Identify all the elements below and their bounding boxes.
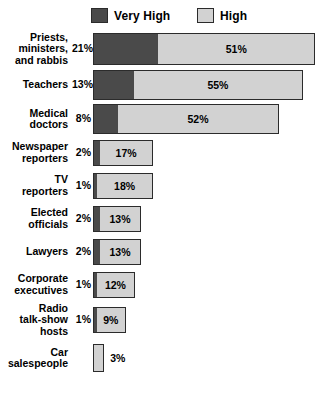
stacked-bar: 51%	[93, 33, 315, 65]
stacked-bar: 13%	[93, 239, 141, 265]
bar-high-value-label: 52%	[188, 113, 209, 125]
bar-segment-high: 51%	[158, 34, 314, 64]
row-category-label: Newspaper reporters	[0, 141, 72, 164]
row-category-label: Radio talk-show hosts	[0, 303, 72, 338]
legend-swatch-high	[197, 8, 214, 23]
row-very-high-value: 8%	[72, 113, 93, 125]
bar-high-value-label: 18%	[114, 180, 135, 192]
bar-segment-high: 9%	[97, 308, 125, 332]
stacked-bar: 17%	[93, 140, 153, 166]
legend-label-high: High	[220, 10, 247, 22]
row-very-high-value: 2%	[72, 147, 93, 159]
row-very-high-value: 2%	[72, 213, 93, 225]
legend-item-high: High	[197, 8, 247, 23]
bar-segment-high: 17%	[100, 141, 152, 165]
row-category-label: Medical doctors	[0, 108, 72, 131]
row-category-label: Priests, ministers, and rabbis	[0, 32, 72, 67]
row-very-high-value: 1%	[72, 279, 93, 291]
row-very-high-value: 13%	[72, 79, 93, 91]
bar-area: 18%	[93, 169, 324, 202]
bar-high-value-label: 55%	[207, 79, 228, 91]
bar-segment-high: 12%	[97, 273, 134, 297]
bar-segment-high	[94, 345, 103, 371]
bar-area: 17%	[93, 136, 324, 169]
bar-segment-very-high	[94, 105, 118, 133]
chart-row: Elected officials2%13%	[0, 202, 324, 235]
bar-high-value-label: 51%	[226, 43, 247, 55]
chart-row: Corporate executives1%12%	[0, 268, 324, 301]
bar-high-value-label: 9%	[103, 314, 118, 326]
row-category-label: TV reporters	[0, 174, 72, 197]
stacked-bar-chart: Very High High Priests, ministers, and r…	[0, 0, 324, 407]
chart-row: Lawyers2%13%	[0, 235, 324, 268]
stacked-bar: 13%	[93, 206, 141, 232]
chart-row: Newspaper reporters2%17%	[0, 136, 324, 169]
legend-item-very-high: Very High	[91, 8, 170, 23]
bar-area: 9%	[93, 301, 324, 339]
bar-segment-very-high	[94, 71, 134, 99]
chart-row: Priests, ministers, and rabbis21%51%	[0, 30, 324, 68]
bar-area: 51%	[93, 30, 324, 68]
bar-area: 3%	[93, 339, 324, 377]
row-category-label: Elected officials	[0, 207, 72, 230]
stacked-bar	[93, 344, 104, 372]
bar-high-value-label: 13%	[109, 213, 130, 225]
row-category-label: Lawyers	[0, 246, 72, 258]
bar-segment-high: 52%	[118, 105, 277, 133]
chart-row: Car salespeople3%	[0, 339, 324, 377]
stacked-bar: 12%	[93, 272, 135, 298]
chart-row: Radio talk-show hosts1%9%	[0, 301, 324, 339]
bar-area: 52%	[93, 102, 324, 136]
chart-row: Teachers13%55%	[0, 68, 324, 102]
bar-segment-high: 55%	[134, 71, 302, 99]
bar-segment-very-high	[94, 34, 158, 64]
bar-high-value-label: 17%	[116, 147, 137, 159]
row-category-label: Corporate executives	[0, 273, 72, 296]
row-category-label: Car salespeople	[0, 347, 72, 370]
bar-segment-high: 18%	[97, 174, 152, 198]
row-category-label: Teachers	[0, 79, 72, 91]
stacked-bar: 9%	[93, 307, 126, 333]
chart-legend: Very High High	[0, 8, 324, 30]
bar-high-value-label: 13%	[109, 246, 130, 258]
chart-rows: Priests, ministers, and rabbis21%51%Teac…	[0, 30, 324, 377]
bar-segment-high: 13%	[100, 207, 140, 231]
bar-area: 13%	[93, 202, 324, 235]
row-very-high-value: 21%	[72, 43, 93, 55]
stacked-bar: 18%	[93, 173, 153, 199]
legend-label-very-high: Very High	[114, 10, 170, 22]
bar-area: 13%	[93, 235, 324, 268]
bar-area: 55%	[93, 68, 324, 102]
row-very-high-value: 1%	[72, 314, 93, 326]
bar-segment-high: 13%	[100, 240, 140, 264]
bar-high-value-label: 3%	[110, 352, 125, 364]
bar-high-value-label: 12%	[105, 279, 126, 291]
stacked-bar: 52%	[93, 104, 279, 134]
row-very-high-value: 2%	[72, 246, 93, 258]
chart-row: TV reporters1%18%	[0, 169, 324, 202]
stacked-bar: 55%	[93, 70, 303, 100]
chart-row: Medical doctors8%52%	[0, 102, 324, 136]
bar-area: 12%	[93, 268, 324, 301]
row-very-high-value: 1%	[72, 180, 93, 192]
legend-swatch-very-high	[91, 8, 108, 23]
